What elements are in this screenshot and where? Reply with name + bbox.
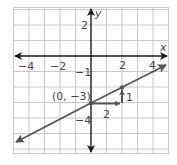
point-2-neg2 [120, 85, 124, 89]
y-tick-label: −4 [75, 114, 91, 127]
x-tick-label: 2 [119, 59, 126, 72]
x-tick-label: −2 [50, 60, 66, 73]
y-tick-label: −1 [75, 66, 91, 79]
rise-label: 1 [126, 91, 133, 104]
coordinate-plane: x y −4 −2 2 4 2 −1 −4 (0, −3) 2 1 [0, 0, 177, 165]
x-tick-label: 4 [149, 59, 156, 72]
x-tick-label: −4 [18, 60, 34, 73]
point-label: (0, −3) [52, 90, 91, 103]
x-axis-label: x [159, 41, 167, 54]
y-axis-label: y [94, 7, 102, 20]
y-tick-label: 2 [81, 19, 88, 32]
run-label: 2 [103, 108, 110, 121]
